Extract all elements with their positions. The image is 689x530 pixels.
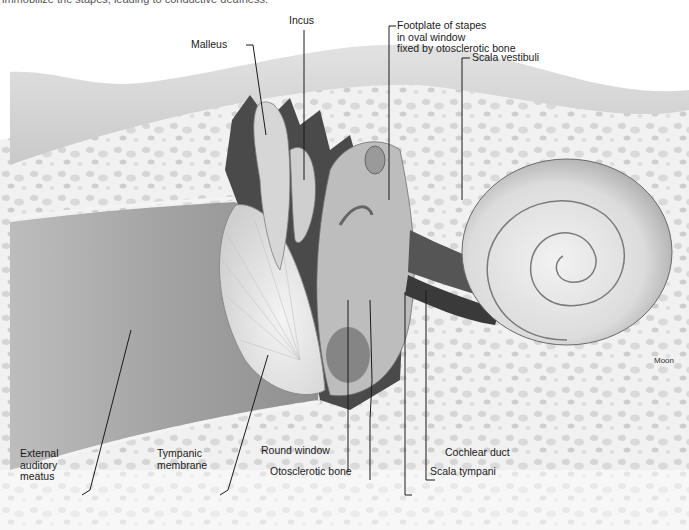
label-footplate-line1: Footplate of stapes bbox=[397, 20, 515, 32]
label-round-window: Round window bbox=[261, 445, 330, 457]
artist-signature: Moon bbox=[654, 356, 674, 365]
label-scala-tympani: Scala tympani bbox=[430, 466, 496, 478]
label-external-line1: External bbox=[20, 448, 59, 460]
cochlea bbox=[462, 159, 672, 345]
ear-illustration bbox=[0, 0, 689, 530]
label-otosclerotic-bone: Otosclerotic bone bbox=[270, 466, 352, 478]
label-tympanic-line2: membrane bbox=[157, 460, 207, 472]
label-cochlear-duct: Cochlear duct bbox=[445, 447, 510, 459]
label-malleus: Malleus bbox=[191, 39, 227, 51]
label-incus: Incus bbox=[289, 15, 314, 27]
label-footplate: Footplate of stapes in oval window fixed… bbox=[397, 20, 515, 55]
label-tympanic-membrane: Tympanic membrane bbox=[157, 448, 207, 471]
label-tympanic-line1: Tympanic bbox=[157, 448, 207, 460]
label-external-auditory-meatus: External auditory meatus bbox=[20, 448, 59, 483]
stapes-footplate bbox=[365, 146, 385, 174]
label-scala-vestibuli: Scala vestibuli bbox=[472, 52, 539, 64]
label-external-line3: meatus bbox=[20, 471, 59, 483]
